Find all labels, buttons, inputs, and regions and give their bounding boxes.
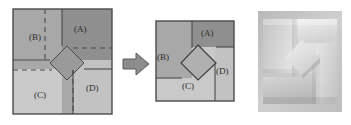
transformation-arrow [122,52,150,76]
region-d-fill [215,47,234,101]
folded-square-svg [155,20,235,102]
photo-vignette-bottom [263,97,337,104]
arrow-right-icon [122,52,150,76]
unfolded-square-diagram: (A) (B) (C) (D) [12,8,113,115]
region-c-fill [156,78,214,101]
region-a-fill [192,21,234,47]
region-b-fill [13,9,62,60]
folded-square-diagram: (A) (B) (C) (D) [155,20,235,102]
unfolded-square-svg [12,8,113,115]
photograph-svg [258,11,342,112]
photo-highlight-top [263,19,337,25]
region-b-fill [156,21,192,78]
paper-folding-figure: (A) (B) (C) (D) [0,0,351,125]
photo-region-b [263,19,296,73]
photo-fold-shadow-bottom [263,69,302,77]
folded-paper-photograph [258,11,342,112]
